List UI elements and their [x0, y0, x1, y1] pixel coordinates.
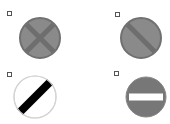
no-waiting-sign-icon [119, 16, 163, 60]
checkbox[interactable] [7, 11, 12, 16]
checkbox[interactable] [114, 71, 119, 76]
no-entry-sign-icon [125, 76, 167, 118]
end-of-restrictions-sign-icon [12, 74, 58, 120]
no-stopping-sign-icon [18, 16, 62, 60]
option-sign-3[interactable] [0, 62, 85, 124]
option-sign-1[interactable] [0, 0, 85, 62]
option-sign-2[interactable] [85, 0, 170, 62]
option-sign-4[interactable] [85, 62, 170, 124]
